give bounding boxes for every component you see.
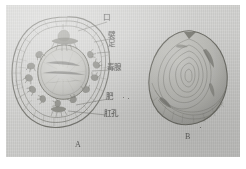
annotation-papilla-line-2: 足 — [108, 40, 115, 48]
anal-papillae — [51, 107, 67, 117]
annotation-papilla: 襞 足 — [108, 32, 115, 48]
annotation-poison-gland: 毒腺 — [107, 64, 121, 72]
scan-paper-background: 口 襞 足 毒腺 肥 肛孔 A B — [6, 5, 240, 157]
scientific-plate: 口 襞 足 毒腺 肥 肛孔 A B — [0, 0, 246, 169]
ink-speck — [128, 98, 129, 99]
ink-speck — [123, 97, 124, 98]
figure-a-drawing — [12, 17, 110, 127]
figure-label-a: A — [75, 140, 81, 149]
figure-label-b: B — [185, 132, 191, 141]
annotation-foot: 肥 — [106, 93, 113, 101]
plate-artwork — [6, 5, 240, 157]
ink-speck — [200, 127, 201, 128]
annotation-mouth: 口 — [103, 14, 110, 22]
annotation-anal-pore: 肛孔 — [104, 110, 118, 118]
figure-b-drawing — [149, 31, 227, 125]
